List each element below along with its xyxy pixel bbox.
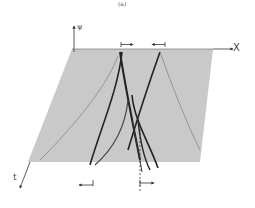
figure-panel: (a) ψ X t (0, 0, 255, 208)
t-axis (20, 162, 30, 188)
waterfall-plot (0, 0, 255, 208)
